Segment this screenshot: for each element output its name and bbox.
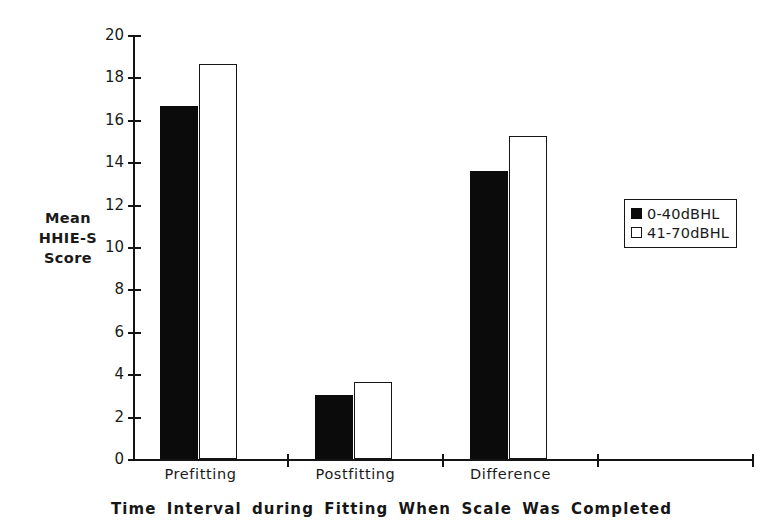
- y-axis-tick-label: 18: [105, 68, 124, 86]
- x-axis-tick: [752, 454, 754, 467]
- x-axis-title: Time Interval during Fitting When Scale …: [0, 500, 783, 518]
- x-axis-category-label: Prefitting: [165, 466, 237, 482]
- bar: [199, 64, 237, 459]
- y-axis-tick: [128, 35, 141, 37]
- x-axis-tick: [597, 454, 599, 467]
- y-axis-tick: [128, 417, 141, 419]
- plot-area: 02468101214161820: [133, 36, 753, 460]
- bar-chart-figure: Mean HHIE-S Score 02468101214161820 Pref…: [0, 0, 783, 532]
- y-axis-tick: [128, 247, 141, 249]
- legend: 0-40dBHL41-70dBHL: [624, 199, 737, 248]
- x-axis-category-label: Difference: [470, 466, 551, 482]
- y-axis-tick: [128, 332, 141, 334]
- y-axis-tick-label: 12: [105, 196, 124, 214]
- legend-item[interactable]: 41-70dBHL: [631, 223, 729, 242]
- x-axis-category-label: Postfitting: [316, 466, 396, 482]
- y-axis-tick-label: 14: [105, 153, 124, 171]
- y-axis-tick-label: 10: [105, 238, 124, 256]
- bar: [470, 171, 508, 459]
- legend-item-label: 0-40dBHL: [647, 206, 720, 222]
- filled-square-icon: [631, 208, 642, 219]
- bar: [354, 382, 392, 459]
- y-axis-tick: [128, 120, 141, 122]
- y-axis-tick-label: 2: [114, 408, 124, 426]
- y-axis-title-line-1: Mean: [22, 208, 114, 228]
- y-axis-tick: [128, 162, 141, 164]
- y-axis-tick-label: 6: [114, 323, 124, 341]
- y-axis-tick: [128, 77, 141, 79]
- bar: [315, 395, 353, 459]
- legend-item[interactable]: 0-40dBHL: [631, 204, 729, 223]
- y-axis-title-line-3: Score: [22, 248, 114, 268]
- y-axis-title-line-2: HHIE-S: [22, 228, 114, 248]
- y-axis-tick-label: 4: [114, 365, 124, 383]
- bar: [160, 106, 198, 459]
- x-axis-tick: [442, 454, 444, 467]
- y-axis-title: Mean HHIE-S Score: [22, 208, 114, 268]
- y-axis-tick: [128, 459, 141, 461]
- y-axis-tick-label: 8: [114, 280, 124, 298]
- y-axis-tick-label: 20: [105, 26, 124, 44]
- y-axis-tick-label: 0: [114, 450, 124, 468]
- hollow-square-icon: [631, 227, 642, 238]
- legend-item-label: 41-70dBHL: [647, 225, 729, 241]
- y-axis-tick: [128, 205, 141, 207]
- bar: [509, 136, 547, 459]
- y-axis-tick: [128, 374, 141, 376]
- x-axis-tick: [287, 454, 289, 467]
- y-axis-tick-label: 16: [105, 111, 124, 129]
- y-axis-tick: [128, 289, 141, 291]
